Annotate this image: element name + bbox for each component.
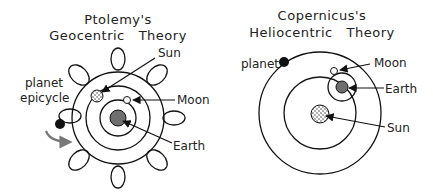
heliocentric-title-line2: Heliocentric Theory — [249, 25, 395, 40]
label-earth: Earth — [385, 82, 417, 96]
label-planet: planet — [25, 76, 63, 90]
sun-body — [91, 90, 103, 102]
earth-body — [336, 81, 348, 93]
moon-body — [124, 97, 131, 104]
motion-arrow-icon — [46, 131, 70, 142]
label-planet: planet — [241, 57, 279, 71]
sun-body — [311, 105, 329, 123]
earth-body — [110, 110, 126, 126]
moon-body — [331, 68, 338, 75]
moon-pointer — [340, 64, 370, 70]
label-sun: Sun — [158, 46, 181, 60]
geocentric-title-line1: Ptolemy's — [84, 12, 152, 27]
planet-body — [279, 57, 289, 67]
heliocentric-diagram: Copernicus's Heliocentric Theory planet … — [241, 8, 417, 174]
label-sun: Sun — [387, 121, 410, 135]
geocentric-diagram: Ptolemy's Geocentric Theory — [20, 12, 210, 188]
label-epicycle: epicycle — [20, 91, 69, 105]
label-moon: Moon — [177, 93, 210, 107]
heliocentric-title-line1: Copernicus's — [278, 8, 367, 23]
label-earth: Earth — [173, 139, 205, 153]
earth-pointer — [123, 121, 172, 143]
geocentric-title-line2: Geocentric Theory — [49, 28, 187, 43]
astronomy-diagram: Ptolemy's Geocentric Theory — [0, 0, 433, 195]
planet-body — [55, 119, 65, 129]
label-moon: Moon — [374, 56, 407, 70]
